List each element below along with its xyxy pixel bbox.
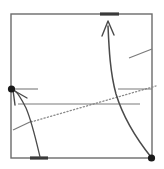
lower-left-diagonal-tick [13,121,32,130]
lower-left-trajectory [15,91,40,157]
diagram-svg [0,0,164,169]
left-boundary-node [8,85,15,92]
main-rising-trajectory [108,26,151,157]
bottom-right-corner-node [148,154,155,161]
diagram-canvas [0,0,164,169]
upper-right-diagonal-tick [129,49,152,58]
bounding-square [11,14,152,158]
